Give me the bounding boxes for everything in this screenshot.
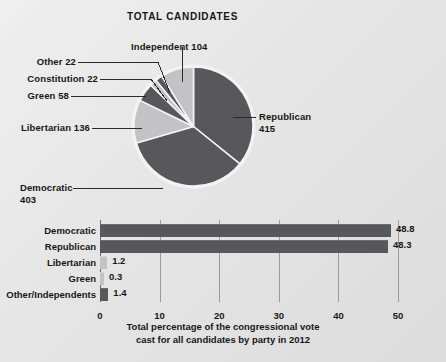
pie-label-republican: Republican — [259, 111, 311, 123]
pie-label-independent: Independent 104 — [131, 41, 207, 53]
figure-container: TOTAL CANDIDATES Independent 104 — [0, 0, 446, 362]
pie-label-green: Green 58 — [0, 90, 69, 102]
bar-value-libertarian: 1.2 — [112, 255, 125, 266]
bar-value-green: 0.3 — [109, 271, 122, 282]
bar-category-republican: Republican — [45, 241, 96, 252]
bar-row-libertarian: 1.2 — [100, 256, 410, 268]
bar-value-republican: 48.3 — [393, 239, 412, 250]
pie-svg — [131, 64, 256, 189]
bar-category-democratic: Democratic — [44, 225, 96, 236]
bar-democratic — [100, 224, 391, 237]
pie-label-democratic-value: 403 — [20, 194, 36, 206]
bar-category-labels: DemocraticRepublicanLibertarianGreenOthe… — [0, 220, 96, 302]
bar-chart: DemocraticRepublicanLibertarianGreenOthe… — [0, 214, 446, 362]
bar-row-democratic: 48.8 — [100, 224, 410, 236]
bar-row-republican: 48.3 — [100, 240, 410, 252]
bar-chart-caption: Total percentage of the congressional vo… — [0, 320, 446, 346]
bar-other-independents — [100, 288, 108, 301]
bar-category-other-independents: Other/Independents — [6, 289, 96, 300]
bar-category-libertarian: Libertarian — [47, 257, 96, 268]
pie-chart-title: TOTAL CANDIDATES — [127, 11, 238, 22]
bar-value-other-independents: 1.4 — [113, 287, 126, 298]
pie-chart — [131, 64, 256, 189]
bar-plot-area: 48.848.31.20.31.4 01020304050 — [100, 220, 410, 302]
bar-libertarian — [100, 256, 107, 269]
bar-republican — [100, 240, 388, 253]
caption-line-1: Total percentage of the congressional vo… — [0, 320, 446, 333]
pie-slice-group — [134, 67, 253, 186]
pie-label-other: Other 22 — [0, 56, 76, 68]
pie-label-constitution: Constitution 22 — [0, 73, 98, 85]
bar-row-green: 0.3 — [100, 272, 410, 284]
bar-row-other-independents: 1.4 — [100, 288, 410, 300]
bar-green — [100, 272, 104, 285]
pie-label-libertarian: Libertarian 136 — [0, 122, 90, 134]
pie-label-democratic-name: Democratic — [20, 182, 73, 193]
pie-label-democratic: Democratic — [20, 182, 73, 194]
caption-line-2: cast for all candidates by party in 2012 — [0, 333, 446, 346]
pie-label-republican-value: 415 — [259, 123, 275, 135]
bar-category-green: Green — [69, 273, 96, 284]
bar-value-democratic: 48.8 — [396, 223, 415, 234]
